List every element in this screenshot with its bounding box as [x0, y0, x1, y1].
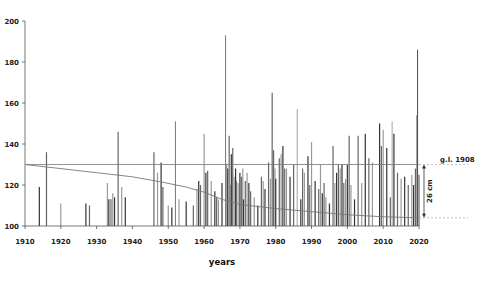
level-difference-annotation: 26 cm	[422, 165, 434, 218]
water-level-chart: 1001201401601802001910192019301940195019…	[0, 0, 491, 284]
reference-line-label: g.l. 1908	[440, 156, 475, 164]
x-tick-label: 2020	[409, 238, 429, 246]
reference-line-gl-1908: g.l. 1908	[25, 156, 475, 165]
y-tick-label: 120	[4, 182, 19, 190]
x-tick-label: 1970	[230, 238, 250, 246]
x-tick-label: 1980	[266, 238, 286, 246]
x-tick-label: 1940	[123, 238, 143, 246]
x-tick-label: 1950	[159, 238, 179, 246]
x-tick-label: 1920	[51, 238, 71, 246]
y-tick-label: 100	[4, 223, 19, 231]
x-tick-label: 1990	[302, 238, 322, 246]
x-tick-label: 2010	[373, 238, 393, 246]
peak-bars	[39, 35, 419, 226]
y-tick-label: 180	[4, 59, 19, 67]
x-axis-title: years	[209, 257, 235, 267]
x-tick-label: 1930	[87, 238, 107, 246]
x-tick-label: 1910	[15, 238, 35, 246]
y-tick-label: 140	[4, 141, 19, 149]
y-tick-label: 160	[4, 100, 19, 108]
x-tick-label: 1960	[194, 238, 214, 246]
x-tick-label: 2000	[338, 238, 358, 246]
y-tick-label: 200	[4, 18, 19, 26]
level-difference-label: 26 cm	[426, 179, 434, 203]
